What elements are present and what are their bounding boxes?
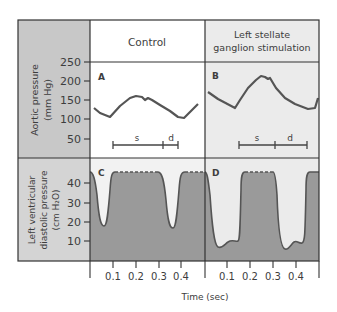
svg-text:(cm H₂O): (cm H₂O)	[51, 189, 61, 230]
figure: Control Left stellate ganglion stimulati…	[0, 0, 337, 312]
svg-text:0.2: 0.2	[242, 271, 258, 282]
svg-text:0.1: 0.1	[105, 271, 121, 282]
svg-text:0.2: 0.2	[128, 271, 144, 282]
control-header: Control	[128, 36, 166, 48]
svg-text:20: 20	[67, 216, 81, 229]
panel-a-diastole-label: d	[168, 133, 174, 143]
time-ticks	[90, 261, 319, 278]
svg-text:(mm Hg): (mm Hg)	[42, 79, 53, 121]
stim-header-line2: ganglion stimulation	[213, 42, 310, 53]
svg-text:Left ventricular: Left ventricular	[27, 175, 37, 244]
svg-text:0.3: 0.3	[265, 271, 281, 282]
panel-a-systole-label: s	[135, 133, 140, 143]
svg-text:30: 30	[67, 197, 81, 210]
stim-header-line1: Left stellate	[234, 29, 290, 40]
svg-text:100: 100	[60, 113, 81, 126]
panel-label-b: B	[212, 71, 219, 81]
time-tick-labels-d: 0.1 0.2 0.3 0.4	[219, 271, 304, 282]
svg-text:50: 50	[67, 133, 81, 146]
panel-label-c: C	[98, 168, 105, 178]
panel-label-a: A	[98, 72, 105, 82]
svg-text:0.1: 0.1	[219, 271, 235, 282]
time-tick-labels-c: 0.1 0.2 0.3 0.4	[105, 271, 189, 282]
panel-b-systole-label: s	[255, 133, 260, 143]
panel-label-d: D	[212, 168, 219, 178]
svg-text:0.4: 0.4	[288, 271, 304, 282]
svg-text:200: 200	[60, 75, 81, 88]
svg-text:250: 250	[60, 56, 81, 69]
x-axis-label: Time (sec)	[180, 292, 228, 302]
svg-text:diastolic pressure: diastolic pressure	[39, 170, 49, 250]
svg-text:10: 10	[67, 235, 81, 248]
svg-text:0.3: 0.3	[151, 271, 167, 282]
panel-b-diastole-label: d	[287, 133, 293, 143]
svg-text:Aortic pressure: Aortic pressure	[29, 64, 40, 136]
svg-text:40: 40	[67, 177, 81, 190]
svg-text:150: 150	[60, 94, 81, 107]
svg-text:0.4: 0.4	[173, 271, 189, 282]
